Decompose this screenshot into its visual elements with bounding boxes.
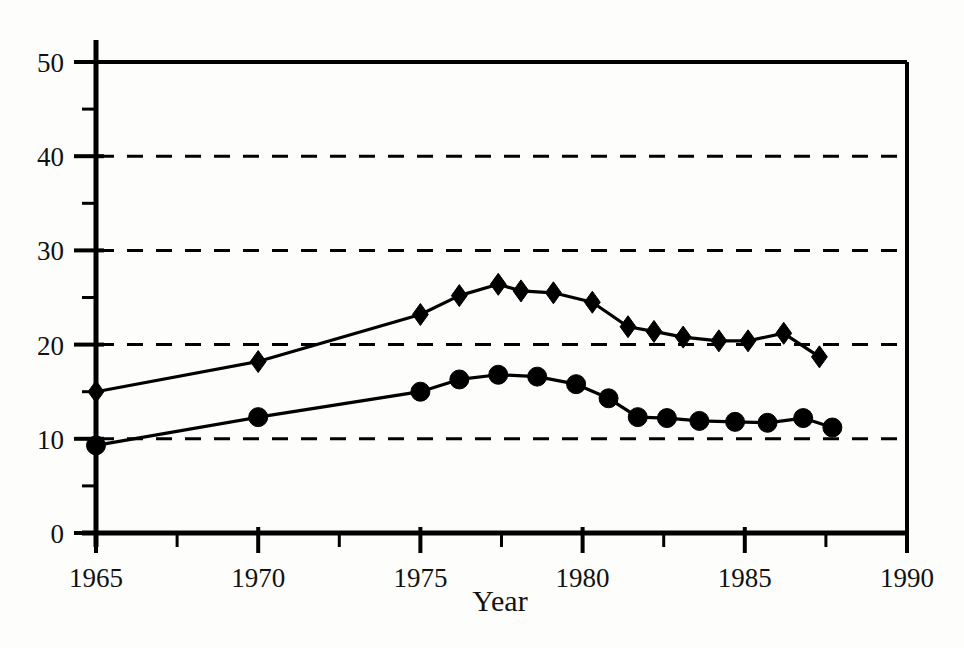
y-tick-label-40: 40: [37, 142, 64, 172]
marker-circle: [528, 367, 547, 386]
marker-circle: [628, 408, 647, 427]
y-tick-label-30: 30: [37, 236, 64, 266]
marker-diamond: [584, 291, 600, 313]
marker-diamond: [711, 330, 727, 352]
marker-diamond: [513, 280, 529, 302]
x-tick-label-1980: 1980: [556, 563, 610, 593]
marker-circle: [690, 411, 709, 430]
x-tick-label-1990: 1990: [880, 563, 934, 593]
marker-circle: [567, 375, 586, 394]
x-tick-label-1975: 1975: [393, 563, 447, 593]
axis-ticks: [74, 62, 907, 553]
marker-circle: [823, 418, 842, 437]
x-tick-label-1970: 1970: [231, 563, 285, 593]
marker-diamond: [740, 330, 756, 352]
x-tick-label-1985: 1985: [718, 563, 772, 593]
marker-circle: [249, 408, 268, 427]
marker-circle: [794, 409, 813, 428]
line-chart: 01020304050196519701975198019851990 Year: [0, 0, 964, 648]
marker-circle: [726, 412, 745, 431]
x-axis-title: Year: [472, 584, 527, 617]
marker-diamond: [250, 351, 266, 373]
marker-circle: [87, 436, 106, 455]
marker-diamond: [545, 282, 561, 304]
plot-frame: [82, 40, 907, 547]
marker-circle: [599, 389, 618, 408]
y-tick-label-10: 10: [37, 425, 64, 455]
marker-diamond: [490, 273, 506, 295]
marker-circle: [450, 370, 469, 389]
marker-circle: [657, 409, 676, 428]
marker-diamond: [776, 322, 792, 344]
series-lines: [96, 284, 832, 445]
marker-diamond: [646, 320, 662, 342]
marker-circle: [489, 365, 508, 384]
marker-circle: [411, 382, 430, 401]
marker-circle: [758, 413, 777, 432]
y-tick-label-0: 0: [51, 519, 65, 549]
grid-lines: [98, 156, 907, 439]
chart-container: 01020304050196519701975198019851990 Year: [0, 0, 964, 648]
marker-diamond: [88, 381, 104, 403]
marker-diamond: [620, 316, 636, 338]
marker-diamond: [412, 303, 428, 325]
x-tick-label-1965: 1965: [69, 563, 123, 593]
y-tick-label-50: 50: [37, 48, 64, 78]
tick-labels: 01020304050196519701975198019851990: [37, 48, 934, 593]
y-tick-label-20: 20: [37, 331, 64, 361]
marker-diamond: [451, 285, 467, 307]
marker-diamond: [811, 346, 827, 368]
